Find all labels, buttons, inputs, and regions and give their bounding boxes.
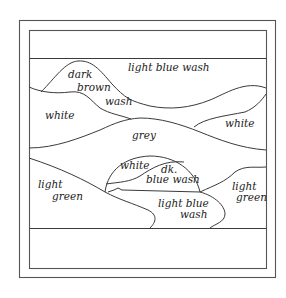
label-right-white: white (225, 117, 255, 129)
landscape-diagram: light blue wash dark brown wash white wh… (0, 0, 286, 298)
label-river-2: wash (180, 208, 207, 220)
dome-base (108, 188, 200, 192)
label-dome-white: white (120, 159, 150, 171)
label-hill-2: brown (77, 81, 111, 93)
label-left-green-1: light (38, 178, 63, 190)
label-hill-1: dark (68, 68, 92, 80)
outer-frame (20, 21, 276, 278)
label-dome-blue: blue wash (146, 173, 200, 185)
label-grey: grey (132, 129, 157, 141)
label-right-green-2: green (236, 191, 267, 203)
label-sky: light blue wash (128, 61, 210, 73)
label-left-white: white (45, 109, 75, 121)
label-hill-3: wash (105, 95, 132, 107)
label-left-green-2: green (52, 190, 83, 202)
